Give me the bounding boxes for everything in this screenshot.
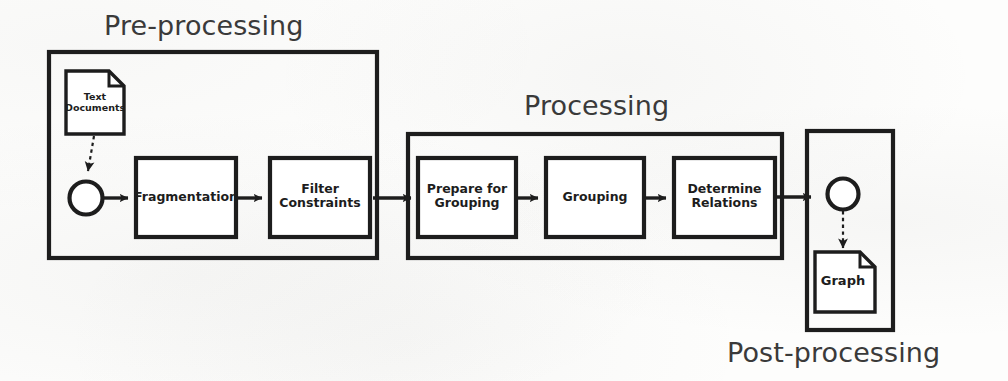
node-determine-relations[interactable] (674, 158, 775, 237)
section-title-processing: Processing (524, 90, 669, 121)
edge-documents-to-start (88, 136, 94, 171)
node-text-documents[interactable] (66, 71, 124, 134)
node-end-circle[interactable] (828, 179, 859, 210)
node-start-circle[interactable] (70, 182, 103, 215)
node-graph-document[interactable] (815, 252, 875, 312)
diagram-canvas: Pre-processing Processing Post-processin… (0, 0, 1008, 381)
node-prepare-for-grouping[interactable] (418, 158, 516, 237)
section-title-pre-processing: Pre-processing (104, 10, 304, 41)
node-fragmentation[interactable] (136, 158, 236, 237)
section-title-post-processing: Post-processing (727, 337, 940, 368)
node-filter-constraints[interactable] (270, 158, 370, 237)
diagram-vector-layer (0, 0, 1008, 381)
node-grouping[interactable] (546, 158, 644, 237)
